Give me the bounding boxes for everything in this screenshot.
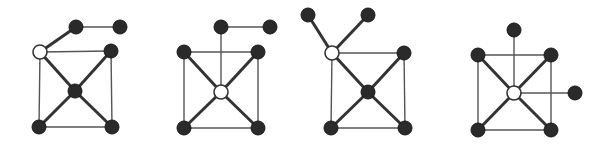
white-node-w [214,85,228,99]
edge-c-br [368,92,405,128]
graph-4 [471,23,582,137]
edge-rt-br [111,51,112,127]
edge-rt-c [75,51,111,91]
edge-rt-br [404,53,405,128]
black-node-br [544,123,558,137]
black-node-rt [251,45,265,59]
black-node-c [68,84,82,98]
graph-2 [177,20,277,135]
black-node-rt [397,46,411,60]
white-node-w [33,45,47,59]
edge-rt-w [514,55,551,93]
black-node-t2 [263,20,277,34]
edge-lt-w [478,55,514,93]
black-node-lt [177,45,191,59]
edge-w-c [40,52,75,91]
edge-rt-w [221,52,258,92]
black-node-t1 [214,20,228,34]
black-node-tl [301,8,315,22]
edge-c-br [75,91,112,127]
graph-diagram-canvas [0,0,605,155]
black-node-bl [471,123,485,137]
edge-w-bl [331,53,332,128]
black-node-c [361,85,375,99]
black-node-tr [361,8,375,22]
black-node-bl [324,121,338,135]
white-node-w [325,46,339,60]
black-node-t1 [69,20,83,34]
graph-3 [301,8,412,135]
black-node-br [105,120,119,134]
black-node-rt [104,44,118,58]
edge-tr-w [332,15,368,53]
edge-lt-w [184,52,221,92]
black-node-t [507,23,521,37]
black-node-t2 [113,20,127,34]
graph-1 [32,20,127,134]
black-node-lt [471,48,485,62]
edge-w-c [332,53,368,92]
black-node-rt [544,48,558,62]
black-node-br [251,121,265,135]
edge-c-bl [331,92,368,128]
edge-w-bl [39,52,40,127]
edge-br-w [514,93,551,130]
black-node-r [568,86,582,100]
white-node-w [507,86,521,100]
edge-rt-c [368,53,404,92]
edge-w-rt [40,51,111,52]
black-node-br [398,121,412,135]
black-node-bl [177,121,191,135]
black-node-bl [32,120,46,134]
edge-c-bl [39,91,75,127]
